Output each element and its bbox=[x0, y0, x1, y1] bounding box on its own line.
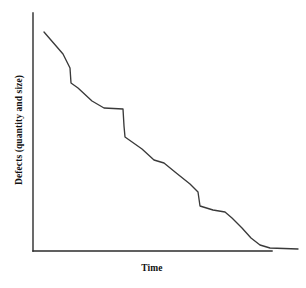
y-axis-label: Defects (quantity and size) bbox=[14, 75, 25, 185]
x-axis-label: Time bbox=[141, 263, 162, 273]
defects-over-time-line-chart: Time Defects (quantity and size) bbox=[0, 0, 306, 288]
chart-container: Time Defects (quantity and size) bbox=[0, 0, 306, 288]
